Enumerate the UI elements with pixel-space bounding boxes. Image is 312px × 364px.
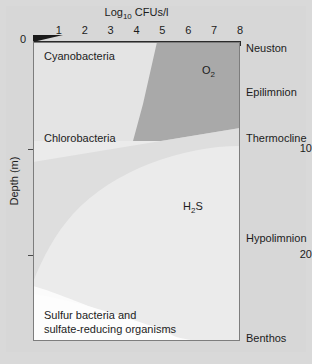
- x-axis-title-base: Log: [105, 6, 123, 18]
- lake-stratification-figure: Log10 CFUs/l 0 12345678 1020 Depth (m): [0, 0, 312, 364]
- label-sulfur-line2: sulfate-reducing organisms: [44, 322, 176, 336]
- zone-label-hypolimnion: Hypolimnion: [246, 232, 307, 244]
- label-oxygen-base: O: [202, 64, 211, 76]
- label-cyanobacteria: Cyanobacteria: [44, 50, 115, 62]
- x-tick-label-3: 3: [102, 24, 120, 36]
- x-tick-label-7: 7: [205, 24, 223, 36]
- x-axis-title-subscript: 10: [123, 12, 132, 21]
- zone-label-neuston: Neuston: [246, 42, 287, 54]
- label-oxygen: O2: [202, 64, 215, 79]
- zone-label-thermocline: Thermocline: [246, 132, 307, 144]
- x-axis-zero-label: 0: [20, 33, 26, 45]
- label-h2s-rest: S: [195, 200, 202, 212]
- x-tick-label-5: 5: [153, 24, 171, 36]
- label-hydrogen-sulfide: H2S: [183, 200, 203, 215]
- x-tick-label-1: 1: [50, 24, 68, 36]
- label-sulfur-bacteria: Sulfur bacteria and sulfate-reducing org…: [44, 308, 176, 336]
- zone-label-benthos: Benthos: [246, 332, 286, 344]
- x-axis-title-rest: CFUs/l: [132, 6, 169, 18]
- stratification-regions: [33, 42, 240, 341]
- zone-label-epilimnion: Epilimnion: [246, 86, 297, 98]
- y-axis-title: Depth (m): [8, 146, 20, 216]
- x-tick-label-8: 8: [231, 24, 249, 36]
- label-oxygen-subscript: 2: [211, 70, 215, 79]
- x-axis-title: Log10 CFUs/l: [33, 6, 240, 21]
- label-h2s-base: H: [183, 200, 191, 212]
- x-tick-8: [240, 41, 241, 46]
- x-tick-label-2: 2: [76, 24, 94, 36]
- x-tick-label-6: 6: [179, 24, 197, 36]
- label-sulfur-line1: Sulfur bacteria and: [44, 308, 176, 322]
- plot-area: [33, 42, 240, 341]
- y-tick-label-20: 20: [282, 248, 312, 260]
- label-chlorobacteria: Chlorobacteria: [44, 132, 116, 144]
- x-tick-label-4: 4: [128, 24, 146, 36]
